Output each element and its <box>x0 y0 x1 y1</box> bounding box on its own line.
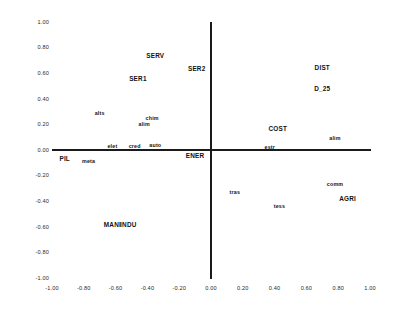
point-label-dist: DIST <box>315 63 330 70</box>
y-tick-label: 0.20 <box>27 121 49 127</box>
point-label-auto: auto <box>149 142 161 148</box>
point-label-agri: AGRI <box>339 195 356 202</box>
point-label-alts: alts <box>95 110 105 116</box>
y-tick-label: 1.00 <box>27 19 49 25</box>
point-label-pil: PIL <box>59 154 70 161</box>
point-label-serv: SERV <box>146 52 164 59</box>
x-tick-label: 0.60 <box>301 285 313 291</box>
point-label-alim: alim <box>329 135 340 141</box>
point-label-chim: chim <box>146 115 159 121</box>
y-tick-label: -0.40 <box>27 198 49 204</box>
point-label-elet: elet <box>107 143 117 149</box>
x-tick-label: -0.20 <box>172 285 186 291</box>
point-label-alim: alim <box>138 121 149 127</box>
y-tick-label: -1.00 <box>27 275 49 281</box>
point-label-d-25: D_25 <box>314 85 330 92</box>
y-tick-label: -0.20 <box>27 172 49 178</box>
y-axis-line <box>210 22 212 279</box>
y-tick-label: -0.60 <box>27 224 49 230</box>
point-label-ener: ENER <box>186 151 205 158</box>
point-label-ser2: SER2 <box>188 64 206 71</box>
point-label-tras: tras <box>230 189 241 195</box>
point-label-mani: MANI <box>104 221 121 228</box>
x-tick-label: 0.20 <box>237 285 249 291</box>
point-label-tess: tess <box>274 203 285 209</box>
y-tick-label: 0.00 <box>27 147 49 153</box>
point-label-estr: estr <box>265 144 276 150</box>
x-tick-label: 0.00 <box>205 285 217 291</box>
point-label-comm: comm <box>327 181 343 187</box>
x-tick-label: 0.80 <box>332 285 344 291</box>
x-tick-label: 1.00 <box>364 285 376 291</box>
x-tick-label: 0.40 <box>269 285 281 291</box>
y-tick-label: 0.40 <box>27 96 49 102</box>
x-tick-label: -0.80 <box>77 285 91 291</box>
scatter-plot-canvas: -1.00-0.80-0.60-0.40-0.200.000.200.400.6… <box>0 0 400 318</box>
x-tick-label: -0.40 <box>141 285 155 291</box>
x-tick-label: -1.00 <box>45 285 59 291</box>
y-tick-label: -0.80 <box>27 249 49 255</box>
y-tick-label: 0.60 <box>27 70 49 76</box>
point-label-cost: COST <box>269 125 288 132</box>
point-label-meta: meta <box>82 158 95 164</box>
point-label-indu: INDU <box>120 221 136 228</box>
x-tick-label: -0.60 <box>109 285 123 291</box>
point-label-cred: cred <box>129 143 141 149</box>
y-tick-label: 0.80 <box>27 44 49 50</box>
point-label-ser1: SER1 <box>129 75 147 82</box>
